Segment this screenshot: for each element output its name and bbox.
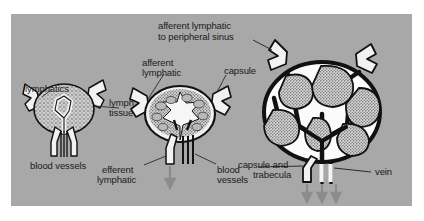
label-vein: vein xyxy=(375,167,392,178)
label-lymphatics: lymphatics xyxy=(25,84,69,95)
diagram-artwork xyxy=(11,14,412,206)
label-afferent-lymphatic-line2: lymphatic xyxy=(142,68,181,79)
label-capsule: capsule xyxy=(224,66,256,77)
label-afferent-peripheral-line1: afferent lymphatic xyxy=(158,21,231,32)
label-efferent-lymphatic-line2: lymphatic xyxy=(97,175,136,186)
label-lymph-tissue-line2: tissue xyxy=(109,108,133,119)
diagram-panel: lymphatics lymph tissue blood vessels af… xyxy=(11,14,412,206)
figure-root: lymphatics lymph tissue blood vessels af… xyxy=(0,0,424,221)
label-afferent-peripheral-line2: to peripheral sinus xyxy=(158,32,234,43)
label-blood-vessels-left: blood vessels xyxy=(30,161,86,172)
diagram-intermediate-node xyxy=(130,74,231,184)
label-capsule-trabecula-line2: trabecula xyxy=(238,170,306,181)
